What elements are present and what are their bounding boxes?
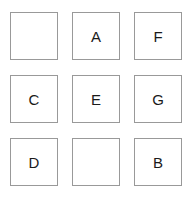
letter-grid-container: A F C E G D B: [0, 0, 193, 197]
grid-cell-label: C: [29, 92, 40, 107]
grid-cell-label: B: [153, 155, 163, 170]
grid-cell-label: D: [29, 155, 40, 170]
grid-cell-r1c2[interactable]: A: [72, 12, 120, 60]
grid-cell-r1c3[interactable]: F: [134, 12, 182, 60]
grid-cell-r3c1[interactable]: D: [10, 138, 58, 186]
grid-cell-r2c1[interactable]: C: [10, 75, 58, 123]
grid-cell-r2c2[interactable]: E: [72, 75, 120, 123]
grid-cell-r1c1[interactable]: [10, 12, 58, 60]
grid-cell-label: E: [91, 92, 101, 107]
grid-cell-label: F: [153, 29, 162, 44]
letter-grid: A F C E G D B: [10, 12, 183, 186]
grid-cell-r2c3[interactable]: G: [134, 75, 182, 123]
grid-cell-label: G: [152, 92, 164, 107]
grid-cell-r3c3[interactable]: B: [134, 138, 182, 186]
grid-cell-r3c2[interactable]: [72, 138, 120, 186]
grid-cell-label: A: [91, 29, 101, 44]
